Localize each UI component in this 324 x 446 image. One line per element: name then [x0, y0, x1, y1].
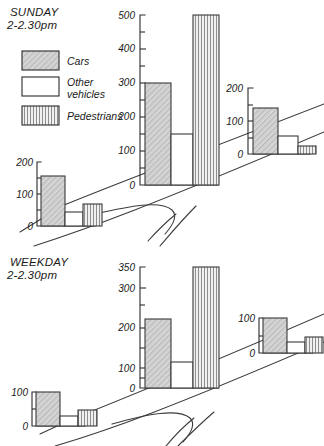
ytick-label-sunday-main-0: 0 — [129, 180, 135, 191]
ytick-label-weekday-main-300: 300 — [118, 283, 135, 294]
panel-title-sunday: SUNDAY 2-2.30pm — [6, 6, 59, 31]
panel-title-sunday-line2: 2-2.30pm — [6, 19, 57, 31]
legend-swatch-cars — [22, 51, 59, 70]
ytick-label-sunday-main-300: 300 — [118, 77, 135, 88]
bar-weekday-right-pedestrians — [305, 337, 323, 353]
ytick-label-weekday-left-0: 0 — [22, 421, 28, 432]
ytick-label-weekday-left-100: 100 — [11, 387, 28, 398]
bar-sunday-main-cars — [145, 83, 171, 185]
bar-weekday-main-cars — [145, 319, 171, 388]
ytick-label-weekday-main-350: 350 — [118, 262, 135, 273]
bar-weekday-right-other-vehicles — [287, 342, 305, 353]
bar-sunday-main-pedestrians — [193, 15, 219, 185]
legend-label-other-vehicles-line2: vehicles — [67, 88, 106, 100]
ytick-label-sunday-main-500: 500 — [118, 10, 135, 21]
legend-label-other-vehicles-line1: Other — [67, 76, 94, 88]
panel-title-weekday-line2: 2-2.30pm — [6, 269, 57, 281]
legend-swatch-pedestrians — [22, 106, 59, 125]
bar-sunday-right-cars — [253, 108, 278, 154]
bar-sunday-left-other-vehicles — [65, 212, 83, 226]
ytick-label-weekday-main-0: 0 — [129, 383, 135, 394]
bar-weekday-main-other-vehicles — [171, 362, 193, 388]
bar-sunday-right-other-vehicles — [278, 136, 298, 154]
ytick-label-sunday-left-100: 100 — [16, 189, 33, 200]
traffic-count-figure: SUNDAY 2-2.30pm Cars Other vehicles Pede… — [0, 0, 324, 446]
ytick-label-sunday-main-100: 100 — [118, 145, 135, 156]
ytick-label-sunday-right-0: 0 — [237, 149, 243, 160]
bar-sunday-right-pedestrians — [298, 146, 316, 154]
ytick-label-sunday-left-200: 200 — [15, 157, 33, 168]
bar-sunday-main-other-vehicles — [171, 134, 193, 185]
bar-weekday-main-pedestrians — [193, 267, 219, 388]
ytick-label-weekday-main-100: 100 — [118, 363, 135, 374]
ytick-label-weekday-right-0: 0 — [249, 348, 255, 359]
bar-weekday-right-cars — [263, 318, 287, 353]
ytick-label-weekday-right-100: 100 — [238, 313, 255, 324]
bar-weekday-left-cars — [36, 392, 60, 426]
bar-sunday-left-pedestrians — [83, 204, 102, 226]
ytick-label-sunday-main-400: 400 — [118, 43, 135, 54]
bar-weekday-left-other-vehicles — [60, 416, 78, 426]
ytick-label-weekday-main-200: 200 — [117, 322, 135, 333]
ytick-label-sunday-main-200: 200 — [117, 111, 135, 122]
bar-sunday-left-cars — [41, 176, 65, 226]
ytick-label-sunday-left-0: 0 — [27, 221, 33, 232]
legend-label-pedestrians: Pedestrians — [67, 110, 123, 122]
ytick-label-sunday-right-100: 100 — [226, 116, 243, 127]
legend-label-cars: Cars — [67, 55, 90, 67]
legend-swatch-other-vehicles — [22, 77, 59, 96]
panel-title-weekday-line1: WEEKDAY — [10, 256, 69, 268]
ytick-label-sunday-right-200: 200 — [225, 83, 243, 94]
panel-title-sunday-line1: SUNDAY — [10, 6, 59, 18]
bar-weekday-left-pedestrians — [78, 410, 97, 426]
